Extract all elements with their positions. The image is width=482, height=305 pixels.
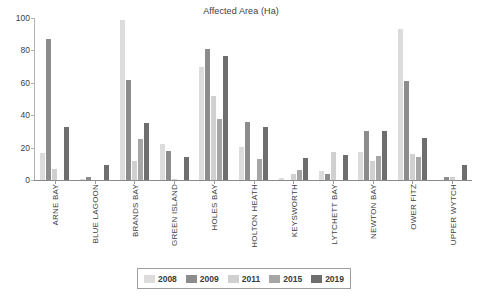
x-axis-category-cell: HOLTON HEATH [234,182,274,254]
x-axis-label-arne-bay: ARNE BAY [50,184,59,225]
bar-2019-blue-lagoon[interactable] [104,165,109,180]
x-axis-category-labels: ARNE BAYBLUE LAGOONBRANDS BAYGREEN ISLAN… [35,182,473,254]
legend-item-2008[interactable]: 2008 [144,274,177,284]
bar-2019-newton-bay[interactable] [382,131,387,180]
x-axis-label-holes-bay: HOLES BAY [210,184,219,231]
bar-group [35,18,75,180]
bar-2008-blue-lagoon[interactable] [80,179,85,180]
bar-2008-holes-bay[interactable] [199,67,204,180]
bar-2015-brands-bay[interactable] [138,139,143,180]
bar-group [75,18,115,180]
legend-label-2011: 2011 [242,274,260,284]
bar-2019-brands-bay[interactable] [144,123,149,181]
x-axis-category-cell: OWER FITZ [393,182,433,254]
bar-2009-green-island[interactable] [166,151,171,180]
y-axis-tick-label: 0 [25,175,30,185]
bar-2008-arne-bay[interactable] [40,153,45,180]
legend-item-2019[interactable]: 2019 [311,274,344,284]
bar-2008-newton-bay[interactable] [358,152,363,180]
x-axis-label-brands-bay: BRANDS BAY [130,184,139,237]
x-axis-label-blue-lagoon: BLUE LAGOON [90,184,99,244]
bar-group [114,18,154,180]
x-axis-label-upper-wytch: UPPER WYTCH [449,184,458,245]
y-axis-tick-label: 80 [21,45,30,55]
bar-2015-holton-heath[interactable] [257,159,262,180]
bar-2009-lytchett-bay[interactable] [325,174,330,180]
legend-item-2011[interactable]: 2011 [228,274,260,284]
legend-label-2008: 2008 [158,274,177,284]
bar-2019-arne-bay[interactable] [64,127,69,180]
bar-2019-keysworth[interactable] [303,158,308,180]
bar-2019-holton-heath[interactable] [263,127,268,180]
bar-2019-upper-wytch[interactable] [462,165,467,180]
legend-swatch-2008 [144,275,155,283]
bar-group [393,18,433,180]
x-axis-category-cell: ARNE BAY [35,182,75,254]
x-axis-category-cell: LYTCHETT BAY [314,182,354,254]
bar-2008-lytchett-bay[interactable] [319,171,324,180]
bar-2011-brands-bay[interactable] [132,161,137,180]
bar-2011-lytchett-bay[interactable] [331,152,336,180]
y-axis-tick-mark [31,18,34,19]
y-axis-tick-label: 100 [16,13,30,23]
y-axis-tick-mark [31,115,34,116]
y-axis-tick-mark [31,180,34,181]
x-axis-category-cell: BLUE LAGOON [75,182,115,254]
bar-2008-green-island[interactable] [160,144,165,180]
legend-label-2019: 2019 [325,274,344,284]
bar-2009-brands-bay[interactable] [126,80,131,180]
x-axis-category-cell: BRANDS BAY [115,182,155,254]
x-axis-label-lytchett-bay: LYTCHETT BAY [329,184,338,245]
x-axis-label-green-island: GREEN ISLAND [170,184,179,246]
bar-2019-green-island[interactable] [184,157,189,180]
y-axis-tick-label: 20 [21,143,30,153]
chart-legend: 20082009201120152019 [137,268,351,289]
x-axis-label-holton-heath: HOLTON HEATH [249,184,258,248]
chart-title: Affected Area (Ha) [0,6,482,16]
bar-2011-newton-bay[interactable] [370,161,375,180]
bar-2011-holes-bay[interactable] [211,96,216,180]
bar-group [432,18,472,180]
bar-2019-lytchett-bay[interactable] [343,155,348,180]
bar-2015-ower-fitz[interactable] [416,157,421,180]
bar-2009-holton-heath[interactable] [245,122,250,180]
bar-2009-blue-lagoon[interactable] [86,177,91,180]
bar-2008-holton-heath[interactable] [239,147,244,180]
x-axis-category-cell: UPPER WYTCH [433,182,473,254]
bar-2008-brands-bay[interactable] [120,20,125,180]
bar-2008-ower-fitz[interactable] [398,29,403,180]
bar-2009-newton-bay[interactable] [364,131,369,180]
bar-2009-upper-wytch[interactable] [444,177,449,180]
bar-2015-keysworth[interactable] [297,170,302,180]
y-axis-tick-mark [31,148,34,149]
bar-2009-ower-fitz[interactable] [404,81,409,180]
bar-2019-ower-fitz[interactable] [422,138,427,180]
x-axis-category-cell: NEWTON BAY [354,182,394,254]
bar-2009-holes-bay[interactable] [205,49,210,180]
legend-label-2009: 2009 [200,274,219,284]
x-axis-label-keysworth: KEYSWORTH [289,184,298,237]
bar-2011-ower-fitz[interactable] [410,154,415,180]
bar-group [313,18,353,180]
bar-group [234,18,274,180]
bar-2019-holes-bay[interactable] [223,56,228,180]
y-axis-tick-mark [31,83,34,84]
y-axis-tick-mark [31,50,34,51]
bar-groups [35,18,472,180]
legend-swatch-2011 [228,275,239,283]
bar-2011-arne-bay[interactable] [52,169,57,180]
legend-item-2009[interactable]: 2009 [186,274,219,284]
plot-area: 020406080100 [34,18,472,181]
bar-chart: Affected Area (Ha) 020406080100 ARNE BAY… [0,0,482,305]
legend-item-2015[interactable]: 2015 [269,274,302,284]
legend-swatch-2015 [269,275,280,283]
legend-swatch-2009 [186,275,197,283]
bar-2015-holes-bay[interactable] [217,119,222,180]
x-axis-label-ower-fitz: OWER FITZ [409,184,418,230]
x-axis-category-cell: GREEN ISLAND [154,182,194,254]
bar-2015-newton-bay[interactable] [376,156,381,180]
bar-group [154,18,194,180]
bar-2008-keysworth[interactable] [279,178,284,180]
y-axis-tick-label: 60 [21,78,30,88]
bar-2009-arne-bay[interactable] [46,39,51,180]
